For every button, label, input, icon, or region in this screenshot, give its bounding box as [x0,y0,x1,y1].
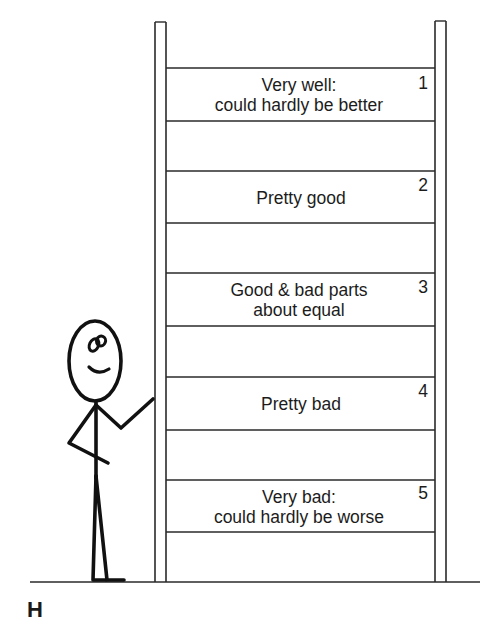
rung-2-lines [166,171,435,223]
figure-hip-arm [69,405,108,463]
figure-smile [89,367,109,372]
rung-3-number: 3 [408,277,428,297]
rung-5-number: 5 [408,483,428,503]
rung-4-number: 4 [408,381,428,401]
right-rail [435,21,446,582]
diagram-graphics [0,0,496,621]
panel-label: H [27,598,43,621]
rung-1-lines [166,68,435,121]
figure-raised-arm [96,399,153,428]
rung-1-number: 1 [408,73,428,93]
rung-3-lines [166,273,435,326]
ladder-diagram: Very well: could hardly be better 1 Pret… [0,0,496,621]
left-rail [155,22,166,582]
figure-eye-right [95,335,107,347]
rung-4-lines [166,377,435,430]
rung-2-number: 2 [408,175,428,195]
figure-head [69,321,121,401]
stick-figure [69,321,153,580]
rung-5-lines [166,480,435,532]
figure-right-leg [96,476,124,580]
